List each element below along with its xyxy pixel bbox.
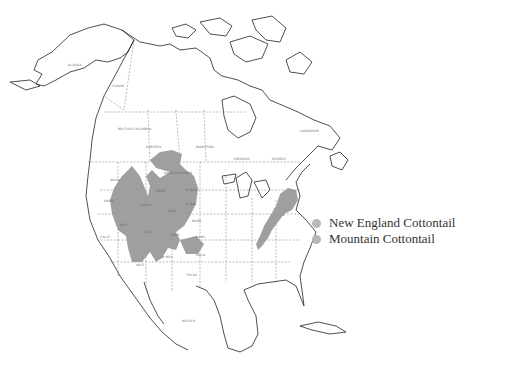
legend-label: New England Cottontail — [329, 215, 455, 231]
label-nev: NEV — [120, 223, 128, 227]
label-mont: MONT — [156, 189, 166, 193]
label-kans: KANS — [196, 235, 205, 239]
label-alberta: ALBERTA — [146, 145, 162, 149]
legend: New England Cottontail Mountain Cottonta… — [312, 215, 455, 247]
label-wash: WASH — [110, 178, 120, 182]
label-yukon: YUKON — [112, 84, 124, 88]
label-n-mex: N MEX — [162, 255, 173, 259]
label-utah: UTAH — [143, 230, 152, 234]
label-calif: CALIF — [100, 235, 110, 239]
label-n-dak: N DAK — [186, 188, 198, 192]
range-map: ALASKA YUKON BRITISH COLUMBIA ALBERTA SA… — [0, 0, 505, 366]
label-colo: COLO — [170, 233, 180, 237]
label-ontario: ONTARIO — [234, 157, 250, 161]
label-saskatchewan: SASKATCHEWAN — [164, 171, 192, 175]
label-labrador: LABRADOR — [300, 129, 319, 133]
label-ariz: ARIZ — [136, 263, 144, 267]
label-alaska: ALASKA — [68, 63, 82, 67]
label-british-columbia: BRITISH COLUMBIA — [118, 127, 152, 131]
label-texas: TEXAS — [185, 273, 197, 277]
legend-swatch-icon — [312, 235, 321, 244]
label-quebec: QUEBEC — [272, 157, 286, 161]
label-okla: OKLA — [196, 253, 206, 257]
label-oreg: OREG — [104, 199, 114, 203]
legend-swatch-icon — [312, 219, 321, 228]
legend-label: Mountain Cottontail — [329, 231, 435, 247]
label-mexico: MEXICO — [182, 319, 196, 323]
range-shading — [110, 150, 298, 262]
label-nebr: NEBR — [192, 219, 201, 223]
borders — [88, 40, 300, 292]
label-idaho: IDAHO — [140, 203, 152, 207]
label-manitoba: MANITOBA — [196, 145, 215, 149]
label-wyo: WYO — [168, 209, 176, 213]
label-s-dak: S DAK — [186, 202, 197, 206]
legend-item-new-england-cottontail: New England Cottontail — [312, 215, 455, 231]
legend-item-mountain-cottontail: Mountain Cottontail — [312, 231, 455, 247]
